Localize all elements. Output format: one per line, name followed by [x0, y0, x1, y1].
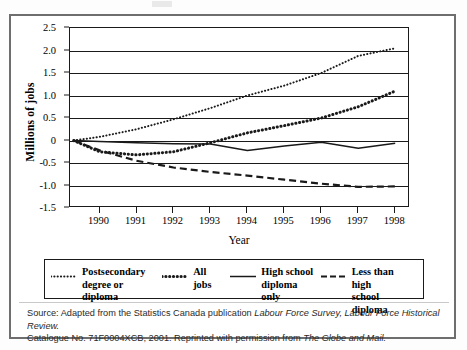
x-tick-mark: [172, 207, 173, 213]
y-tick-label: 1.5: [22, 67, 56, 78]
gridline: [70, 73, 408, 74]
series-line: [74, 48, 396, 140]
legend-label: All jobs: [193, 266, 223, 291]
x-tick-mark: [394, 207, 395, 213]
gridline: [70, 118, 408, 119]
plot-area: [69, 27, 409, 207]
y-tick-label: -1.5: [22, 202, 56, 213]
y-tick-label: 0: [22, 134, 56, 145]
x-axis-title: Year: [69, 234, 409, 246]
x-tick-label: 1993: [189, 215, 229, 226]
chart-legend: Postsecondary degree or diplomaAll jobsH…: [44, 259, 424, 299]
legend-item: High school diploma only: [230, 266, 313, 304]
x-tick-label: 1991: [116, 215, 156, 226]
figure-frame: Millions of jobs 2.52.01.51.00.50-0.5-1.…: [9, 14, 456, 339]
x-tick-mark: [283, 207, 284, 213]
y-tick-mark: [64, 94, 69, 95]
gridline: [70, 186, 408, 187]
chart-container: Millions of jobs 2.52.01.51.00.50-0.5-1.…: [11, 16, 458, 261]
y-tick-mark: [64, 72, 69, 73]
gridline: [70, 96, 408, 97]
gridline: [70, 163, 408, 164]
x-tick-label: 1995: [263, 215, 303, 226]
legend-key-high-school: [230, 268, 256, 279]
y-tick-label: 2.5: [22, 22, 56, 33]
source-line-2-pre: Catalogue No. 71F0004XCB, 2001. Reprinte…: [27, 333, 303, 343]
x-tick-label: 1997: [337, 215, 377, 226]
x-tick-label: 1994: [226, 215, 266, 226]
y-tick-mark: [64, 162, 69, 163]
y-tick-mark: [64, 49, 69, 50]
y-tick-mark: [64, 27, 69, 28]
legend-key-postsecondary: [51, 268, 77, 279]
y-tick-label: -1.0: [22, 179, 56, 190]
source-line-1-pre: Source: Adapted from the Statistics Cana…: [27, 308, 254, 318]
y-tick-mark: [64, 184, 69, 185]
source-note: Source: Adapted from the Statistics Cana…: [27, 307, 442, 345]
x-tick-mark: [246, 207, 247, 213]
x-tick-mark: [320, 207, 321, 213]
source-divider: [19, 302, 449, 303]
y-tick-label: 2.0: [22, 44, 56, 55]
legend-key-all-jobs: [162, 268, 188, 279]
gridline: [70, 141, 408, 142]
legend-label: High school diploma only: [261, 266, 313, 304]
x-tick-label: 1992: [152, 215, 192, 226]
x-tick-label: 1990: [79, 215, 119, 226]
x-tick-mark: [99, 207, 100, 213]
x-tick-mark: [209, 207, 210, 213]
y-tick-label: -0.5: [22, 157, 56, 168]
scan-artifact: [152, 1, 172, 7]
x-tick-label: 1996: [300, 215, 340, 226]
legend-item: All jobs: [162, 266, 223, 291]
legend-item: Postsecondary degree or diploma: [51, 266, 155, 304]
series-line: [74, 141, 396, 151]
gridline: [70, 51, 408, 52]
source-line-2-italic: The Globe and Mail.: [303, 333, 386, 343]
y-tick-mark: [64, 139, 69, 140]
legend-label: Postsecondary degree or diploma: [82, 266, 155, 304]
legend-key-less-than-high-school: [321, 268, 347, 279]
figure-page: Millions of jobs 2.52.01.51.00.50-0.5-1.…: [0, 0, 467, 350]
x-tick-label: 1998: [374, 215, 414, 226]
y-tick-label: 0.5: [22, 112, 56, 123]
y-tick-mark: [64, 117, 69, 118]
y-tick-mark: [64, 207, 69, 208]
y-tick-label: 1.0: [22, 89, 56, 100]
x-tick-mark: [136, 207, 137, 213]
x-tick-mark: [357, 207, 358, 213]
